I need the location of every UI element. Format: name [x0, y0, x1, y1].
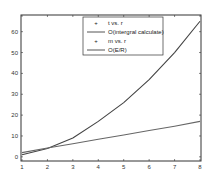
- y-tick-label: 20: [11, 112, 18, 118]
- y-tick-label: 0: [15, 154, 19, 160]
- x-tick-label: 1: [20, 164, 24, 170]
- y-tick-label: 60: [11, 29, 18, 35]
- x-tick-label: 5: [122, 164, 126, 170]
- x-tick-label: 3: [71, 164, 75, 170]
- y-tick-label: 50: [11, 50, 18, 56]
- legend: +t vs. rO(intergral calculate)+m vs. rO(…: [83, 17, 164, 55]
- x-tick-label: 8: [198, 164, 202, 170]
- y-tick-label: 40: [11, 70, 18, 76]
- legend-label: t vs. r: [108, 20, 123, 26]
- y-tick-label: 30: [11, 91, 18, 97]
- x-tick-label: 4: [97, 164, 101, 170]
- x-tick-label: 2: [46, 164, 50, 170]
- legend-label: O(E/R): [108, 47, 127, 53]
- x-tick-label: 7: [173, 164, 177, 170]
- legend-marker-icon: +: [94, 38, 98, 44]
- legend-marker-icon: +: [94, 20, 98, 26]
- legend-label: O(intergral calculate): [108, 29, 164, 35]
- x-tick-label: 6: [147, 164, 151, 170]
- legend-label: m vs. r: [108, 38, 126, 44]
- line-chart: 0102030405060 12345678 +t vs. rO(intergr…: [0, 0, 212, 179]
- y-tick-label: 10: [11, 133, 18, 139]
